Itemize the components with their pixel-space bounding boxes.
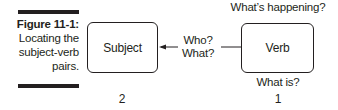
verb-order-number: 1 (268, 93, 288, 106)
verb-box: Verb (241, 23, 314, 73)
verb-label: Verb (266, 41, 290, 55)
whats-happening-label: What’s happening? (228, 1, 328, 14)
subject-label: Subject (103, 41, 142, 55)
what-question: What? (176, 47, 220, 60)
subject-order-number: 2 (112, 93, 132, 106)
subject-box: Subject (87, 22, 158, 73)
arrowhead-icon (159, 45, 166, 50)
who-question: Who? (176, 34, 220, 47)
who-what-label: Who? What? (176, 34, 220, 60)
what-is-label: What is? (248, 76, 308, 89)
